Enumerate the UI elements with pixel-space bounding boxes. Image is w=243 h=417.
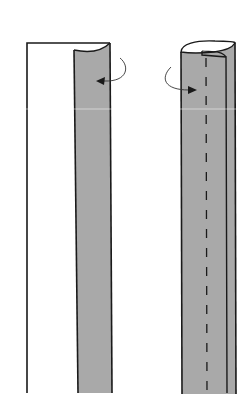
tube-right-edge — [235, 43, 236, 394]
panel-step-2 — [165, 41, 236, 394]
gray-tube-body — [181, 43, 236, 394]
tube-left-edge — [181, 52, 182, 394]
scan-artifact — [0, 108, 243, 110]
panel-step-1 — [27, 43, 126, 393]
gray-folded-strip — [74, 43, 112, 393]
diagram-canvas — [0, 0, 243, 417]
